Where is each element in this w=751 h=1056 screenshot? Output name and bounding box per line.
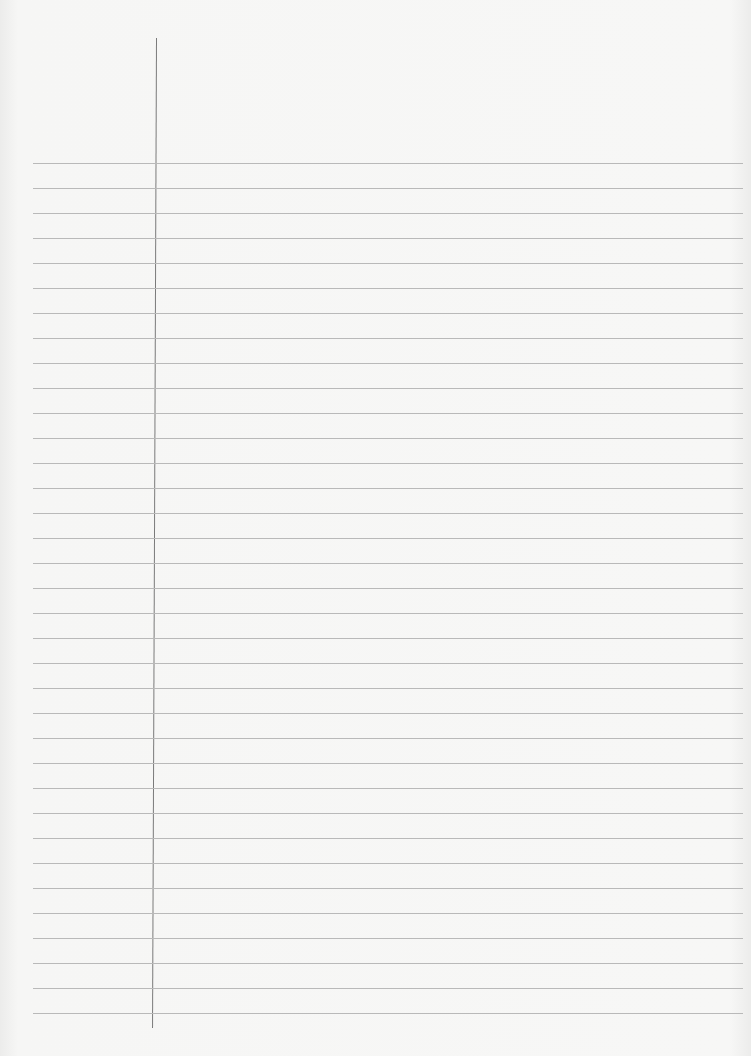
ruled-line	[33, 363, 743, 364]
ruled-line	[33, 713, 743, 714]
ruled-line	[33, 338, 743, 339]
margin-line	[152, 38, 157, 1028]
ruled-line	[33, 513, 743, 514]
ruled-line	[33, 688, 743, 689]
ruled-line	[33, 888, 743, 889]
ruled-line	[33, 763, 743, 764]
ruled-line	[33, 313, 743, 314]
ruled-line	[33, 288, 743, 289]
ruled-line	[33, 813, 743, 814]
ruled-line	[33, 488, 743, 489]
ruled-line	[33, 638, 743, 639]
ruled-line	[33, 588, 743, 589]
ruled-line	[33, 838, 743, 839]
ruled-line	[33, 438, 743, 439]
ruled-line	[33, 463, 743, 464]
ruled-line	[33, 1013, 743, 1014]
ruled-line	[33, 238, 743, 239]
ruled-line	[33, 263, 743, 264]
ruled-line	[33, 738, 743, 739]
lined-paper-sheet	[0, 0, 751, 1056]
ruled-line	[33, 563, 743, 564]
ruled-line	[33, 938, 743, 939]
ruled-line	[33, 963, 743, 964]
ruled-line	[33, 213, 743, 214]
ruled-line	[33, 188, 743, 189]
ruled-line	[33, 413, 743, 414]
ruled-line	[33, 163, 743, 164]
ruled-line	[33, 388, 743, 389]
ruled-line	[33, 863, 743, 864]
ruled-line	[33, 663, 743, 664]
ruled-line	[33, 913, 743, 914]
ruled-line	[33, 538, 743, 539]
ruled-line	[33, 988, 743, 989]
ruled-line	[33, 788, 743, 789]
ruled-line	[33, 613, 743, 614]
